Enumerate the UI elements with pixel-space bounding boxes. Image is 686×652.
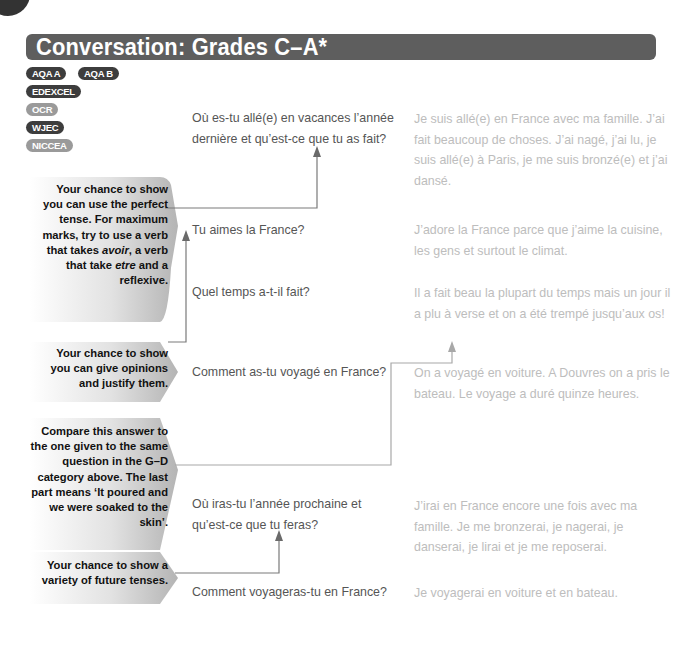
question-6: Comment voyageras-tu en France? [192,582,387,603]
note-future-tenses: Your chance to show a variety of future … [30,552,178,604]
question-3: Quel temps a-t-il fait? [192,282,310,303]
answer-6: Je voyagerai en voiture et en bateau. [414,583,676,604]
answer-5: J’irai en France encore une fois avec ma… [414,496,676,558]
question-5: Où iras-tu l’année prochaine et qu’est-c… [192,494,362,536]
arrowhead-q2 [182,230,190,241]
note-emphasis-avoir: avoir [102,244,129,256]
answer-4: On a voyagé en voiture. A Douvres on a p… [414,363,676,404]
note-opinions: Your chance to show you can give opinion… [30,340,178,402]
answer-1: Je suis allé(e) en France avec ma famill… [414,109,676,191]
question-1: Où es-tu allé(e) en vacances l’année der… [192,108,402,150]
arrowhead-a3 [448,341,456,352]
note-compare: Compare this answer to the one given to … [30,418,178,550]
connector-perfect-to-q1 [165,152,317,208]
question-2: Tu aimes la France? [192,220,304,241]
note-emphasis-etre: etre [115,259,136,271]
connector-future-to-q5 [175,536,279,573]
note-perfect-tense: Your chance to show you can use the perf… [30,176,178,322]
answer-2: J’adore la France parce que j’aime la cu… [414,220,676,261]
answer-3: Il a fait beau la plupart du temps mais … [414,283,676,324]
question-4: Comment as-tu voyagé en France? [192,362,386,383]
